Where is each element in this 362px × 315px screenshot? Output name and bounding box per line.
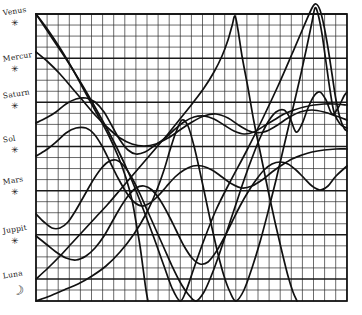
plot-canvas <box>0 0 362 315</box>
ephemeris-chart: Venus✳Mercur✳Saturn✳Sol✳Mars✳Juppit✳Luna… <box>0 0 362 315</box>
